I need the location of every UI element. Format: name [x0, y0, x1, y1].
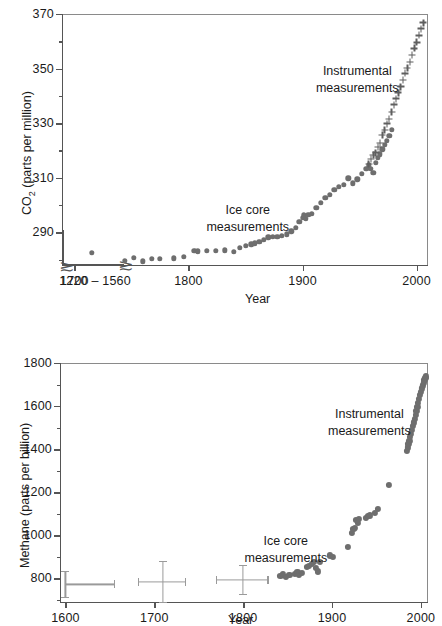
co2-data-point — [204, 248, 209, 253]
co2-data-point — [350, 180, 355, 185]
methane-data-point — [386, 482, 392, 488]
methane-y-tick-label: 1200 — [23, 485, 52, 499]
methane-y-tick — [54, 449, 61, 450]
co2-frame-top — [63, 14, 428, 15]
methane-y-tick-minor — [57, 428, 62, 429]
co2-x-tick — [417, 265, 418, 271]
methane-y-tick-label: 800 — [31, 571, 52, 585]
methane-error-bar — [138, 562, 185, 603]
co2-y-tick-label: 290 — [33, 225, 54, 239]
methane-x-tick-label: 2000 — [407, 611, 436, 625]
methane-y-tick — [54, 406, 61, 407]
methane-x-tick — [421, 602, 422, 608]
co2-y-tick-label: 350 — [33, 62, 54, 76]
co2-data-point — [390, 101, 397, 108]
co2-y-axis-title-subscript: 2 — [27, 191, 37, 196]
co2-data-point — [388, 109, 395, 116]
co2-data-point — [157, 256, 162, 261]
methane-x-tick-label: 1600 — [51, 611, 80, 625]
co2-data-point — [381, 127, 388, 134]
methane-error-bar — [65, 571, 114, 597]
co2-data-point — [213, 248, 218, 253]
methane-y-tick-label: 1800 — [23, 356, 52, 370]
methane-y-tick-minor — [57, 471, 62, 472]
co2-data-point — [386, 115, 393, 122]
co2-data-point — [318, 200, 323, 205]
co2-y-tick-minor — [59, 41, 64, 42]
co2-annotation: Ice coremeasurements — [206, 202, 289, 235]
methane-annotation: Instrumentalmeasurements — [328, 406, 411, 439]
co2-annotation: Instrumentalmeasurements — [316, 63, 399, 96]
co2-data-point — [371, 170, 376, 175]
methane-y-tick-minor — [57, 557, 62, 558]
co2-plot-area: ≳ 2903103303503701700180019002000Instrum… — [62, 14, 428, 266]
co2-annotation-line2: measurements — [206, 219, 289, 236]
co2-y-axis-title: CO2 (parts per million) — [20, 91, 37, 215]
co2-data-point — [393, 95, 400, 102]
methane-y-tick-minor — [57, 514, 62, 515]
methane-data-point — [375, 506, 381, 512]
methane-annotation-line1: Instrumental — [328, 406, 411, 423]
co2-data-point — [413, 39, 420, 46]
co2-data-point — [237, 245, 242, 250]
co2-data-point — [420, 19, 427, 26]
co2-data-point — [296, 219, 301, 224]
co2-data-point — [140, 258, 145, 263]
co2-data-point — [355, 177, 360, 182]
co2-y-tick-minor — [59, 260, 64, 261]
co2-y-tick — [56, 14, 63, 15]
co2-y-axis-title-prefix: CO — [20, 196, 34, 215]
methane-annotation-line2: measurements — [328, 423, 411, 440]
methane-annotation: Ice coremeasurements — [244, 533, 327, 566]
co2-data-point — [404, 65, 411, 72]
methane-data-point — [299, 570, 305, 576]
methane-y-tick-label: 1400 — [23, 442, 52, 456]
co2-annotation-line1: Ice core — [206, 202, 289, 219]
co2-data-point — [195, 249, 200, 254]
methane-plot-area: 8001000120014001600180016001700180019002… — [60, 363, 428, 603]
co2-data-point — [359, 171, 364, 176]
co2-data-point — [222, 248, 227, 253]
co2-data-point — [327, 192, 332, 197]
co2-y-tick-minor — [59, 96, 64, 97]
co2-data-point — [243, 243, 248, 248]
co2-data-point — [122, 258, 127, 263]
methane-data-point — [356, 516, 362, 522]
co2-data-point — [418, 25, 425, 32]
co2-data-point — [314, 205, 319, 210]
methane-x-tick — [154, 602, 155, 608]
co2-data-point — [341, 182, 346, 187]
co2-data-point — [171, 256, 176, 261]
co2-data-point — [409, 51, 416, 58]
co2-annotation-line1: Instrumental — [316, 63, 399, 80]
methane-x-tick-label: 1900 — [318, 611, 347, 625]
methane-data-point — [423, 373, 429, 379]
co2-y-tick — [56, 69, 63, 70]
methane-x-tick-label: 1700 — [140, 611, 169, 625]
co2-data-point — [387, 133, 392, 138]
co2-y-tick-label: 370 — [33, 7, 54, 21]
co2-data-point — [149, 256, 154, 261]
co2-chart-panel: CO2 (parts per million) ≳ 1220 – 1560 ≳ … — [0, 0, 442, 313]
co2-data-point — [399, 77, 406, 84]
co2-x-tick — [74, 265, 75, 271]
co2-x-tick-label: 1800 — [174, 274, 203, 288]
co2-data-point — [309, 211, 314, 216]
co2-y-tick-label: 330 — [33, 116, 54, 130]
methane-y-tick — [54, 492, 61, 493]
methane-y-tick-minor — [57, 600, 62, 601]
co2-frame-right — [427, 14, 428, 265]
co2-y-tick — [56, 178, 63, 179]
methane-frame-right — [427, 363, 428, 602]
co2-x-tick — [188, 265, 189, 271]
methane-annotation-line1: Ice core — [244, 533, 327, 550]
co2-data-point — [415, 32, 422, 39]
methane-x-tick — [332, 602, 333, 608]
co2-y-tick — [56, 232, 63, 233]
methane-y-tick-label: 1000 — [23, 528, 52, 542]
methane-y-tick-minor — [57, 385, 62, 386]
methane-y-tick — [54, 578, 61, 579]
methane-data-point — [330, 554, 336, 560]
co2-data-point — [384, 138, 389, 143]
co2-data-point — [377, 139, 384, 146]
